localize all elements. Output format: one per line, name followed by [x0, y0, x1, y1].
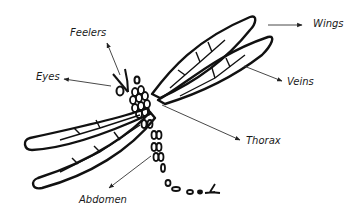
dragonfly-diagram [0, 0, 362, 218]
label-thorax: Thorax [246, 135, 281, 146]
label-wings: Wings [313, 18, 344, 29]
eye-right [135, 77, 140, 84]
arrow-abdomen [109, 156, 151, 188]
eye-left [117, 87, 124, 96]
label-veins: Veins [287, 76, 314, 87]
abdomen [142, 120, 221, 194]
label-feelers: Feelers [70, 27, 106, 38]
arrow-eyes [64, 79, 111, 86]
wing-lower-left [25, 108, 155, 188]
arrow-veins [244, 66, 282, 81]
wing-upper-right [152, 16, 272, 104]
head [113, 69, 140, 96]
arrow-thorax [162, 105, 240, 140]
label-eyes: Eyes [36, 71, 60, 82]
arrow-feelers [107, 43, 120, 75]
label-abdomen: Abdomen [79, 194, 127, 205]
